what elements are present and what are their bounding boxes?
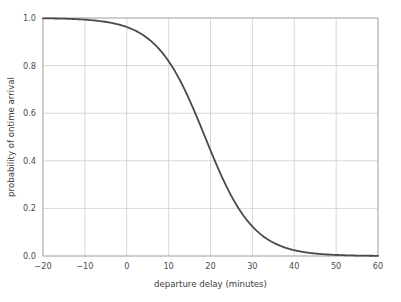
x-tick-labels: −20−100102030405060 [34, 261, 383, 271]
x-tick-label: 10 [163, 261, 173, 271]
y-tick-label: 0.2 [23, 203, 36, 213]
x-tick-label: 40 [289, 261, 299, 271]
x-tick-label: 20 [205, 261, 215, 271]
x-tick-label: 0 [124, 261, 129, 271]
x-tick-label: −20 [34, 261, 51, 271]
x-axis-title: departure delay (minutes) [154, 279, 267, 289]
x-tick-label: 30 [247, 261, 257, 271]
y-tick-label: 1.0 [23, 13, 36, 23]
y-tick-label: 0.6 [23, 108, 36, 118]
y-tick-label: 0.4 [23, 156, 36, 166]
chart-canvas: −20−100102030405060 0.00.20.40.60.81.0 d… [0, 0, 401, 302]
x-tick-label: −10 [76, 261, 93, 271]
y-tick-label: 0.0 [23, 251, 36, 261]
y-tick-label: 0.8 [23, 61, 36, 71]
x-tick-label: 60 [373, 261, 383, 271]
x-tick-label: 50 [331, 261, 341, 271]
y-axis-title: probability of ontime arrival [6, 77, 16, 197]
chart-figure: −20−100102030405060 0.00.20.40.60.81.0 d… [0, 0, 401, 302]
